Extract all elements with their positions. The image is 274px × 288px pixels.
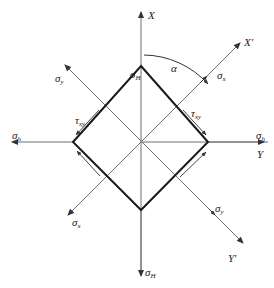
label-sigma-x-upper: σx xyxy=(217,69,226,83)
sigma-y-upper-arrow xyxy=(65,65,100,100)
label-sigma-h-left: σh xyxy=(12,129,21,143)
label-sigma-H-bottom: σH xyxy=(145,266,156,280)
label-x-axis: X xyxy=(147,9,156,21)
label-y-prime-axis: Y' xyxy=(228,252,237,264)
stress-element-diagram: X X' Y Y' α σH σH σh σh σx σx σy σy τxy xyxy=(0,0,274,288)
label-sigma-y-lower: σy xyxy=(215,202,224,216)
sigma-x-lower-arrow xyxy=(68,173,110,215)
label-tau-right: τxy xyxy=(191,107,202,121)
label-tau-left: τxy xyxy=(75,114,86,128)
label-alpha: α xyxy=(171,62,177,74)
label-sigma-H-top: σH xyxy=(130,68,141,82)
label-sigma-x-lower: σx xyxy=(72,216,81,230)
label-y-axis: Y xyxy=(257,148,265,160)
shear-arrow-lower-left xyxy=(77,151,100,176)
shear-arrow-lower-right xyxy=(180,152,206,177)
label-x-prime-axis: X' xyxy=(243,36,254,48)
label-sigma-y-upper: σy xyxy=(55,72,64,86)
principal-axes xyxy=(12,12,268,276)
label-sigma-h-right: σh xyxy=(256,129,265,143)
